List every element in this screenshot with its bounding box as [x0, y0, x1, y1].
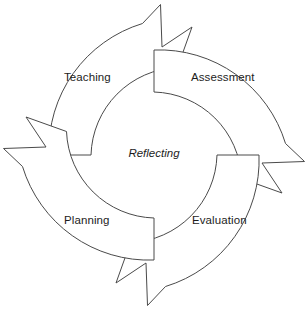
- stage-label-planning: Planning: [64, 215, 110, 227]
- stage-label-assessment: Assessment: [191, 72, 255, 84]
- cycle-diagram: Teaching Assessment Evaluation Planning …: [0, 0, 308, 313]
- center-label-reflecting: Reflecting: [0, 148, 308, 160]
- stage-label-evaluation: Evaluation: [192, 215, 247, 227]
- stage-label-teaching: Teaching: [64, 72, 111, 84]
